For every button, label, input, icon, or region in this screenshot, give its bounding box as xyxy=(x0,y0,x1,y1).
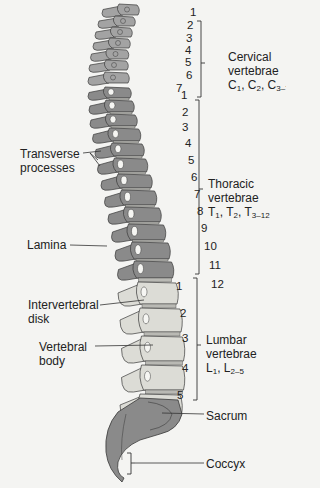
coccyx-label: Coccyx xyxy=(206,457,245,471)
vertebra xyxy=(88,72,129,85)
cervical-vertebra-number: 5 xyxy=(185,56,191,68)
foramen xyxy=(132,226,138,236)
intervertebral-disk xyxy=(111,126,135,128)
vertebra xyxy=(105,190,157,207)
vertebra xyxy=(98,16,135,28)
body-line2: body xyxy=(39,354,87,368)
thoracic-name: Thoracic xyxy=(208,177,270,191)
lumbar-vertebra-number: 1 xyxy=(176,280,182,292)
sacrum-label: Sacrum xyxy=(206,409,247,423)
foramen xyxy=(128,209,134,218)
lumbar-name-2: vertebrae xyxy=(206,347,257,361)
vertebral-column xyxy=(88,4,185,418)
foramen xyxy=(121,176,127,184)
vertebra xyxy=(93,128,141,143)
thoracic-label: Thoracic vertebrae T1, T2, T3–12 xyxy=(208,177,270,223)
lumbar-vertebra-number: 4 xyxy=(182,362,188,374)
thoracic-vertebra-number: 6 xyxy=(191,171,197,183)
thoracic-vertebra-number: 9 xyxy=(201,222,207,234)
thoracic-bracket xyxy=(195,100,203,274)
vertebra xyxy=(118,261,174,282)
cervical-name: Cervical xyxy=(228,50,286,64)
intervertebral-disk-label: Intervertebral disk xyxy=(28,298,99,326)
foramen xyxy=(115,145,121,153)
vertebra xyxy=(89,60,128,72)
thoracic-abbr: T1, T2, T3–12 xyxy=(208,205,270,223)
foramen xyxy=(108,89,114,96)
thoracic-vertebra-number: 1 xyxy=(181,89,187,101)
foramen xyxy=(135,245,141,255)
intervertebral-disk xyxy=(142,304,176,308)
intervertebral-disk xyxy=(116,156,142,158)
thoracic-vertebra-number: 4 xyxy=(185,137,191,149)
cervical-bracket xyxy=(197,21,205,97)
intervertebral-disk xyxy=(126,205,155,207)
vertebra xyxy=(108,207,161,224)
thoracic-vertebra-number: 7 xyxy=(194,188,200,200)
cervical-abbr: C1, C2, C3–7 xyxy=(228,78,286,96)
intervertebral-disk xyxy=(129,222,159,224)
cervical-vertebra-number: 6 xyxy=(186,69,192,81)
vertebra xyxy=(89,100,134,114)
vertebra xyxy=(115,242,170,261)
cervical-label: Cervical vertebrae C1, C2, C3–7 xyxy=(228,50,286,96)
lumbar-vertebra-number: 5 xyxy=(177,389,183,401)
cervical-vertebra-number: 3 xyxy=(186,32,192,44)
lumbar-name: Lumbar xyxy=(206,333,257,347)
sacrum-shape xyxy=(106,398,182,482)
foramen xyxy=(145,371,151,381)
foramen xyxy=(110,116,116,123)
vertebral-body xyxy=(106,49,129,59)
vertebra xyxy=(118,282,178,308)
vertebra xyxy=(88,87,131,100)
lumbar-bracket xyxy=(193,278,201,400)
vertebra xyxy=(98,158,148,174)
vertebra xyxy=(102,4,139,17)
intervertebral-disk xyxy=(114,141,139,143)
vertebra xyxy=(122,336,185,365)
lumbar-label: Lumbar vertebrae L1, L2–5 xyxy=(206,333,257,379)
vertebra xyxy=(91,49,129,61)
vertebra xyxy=(90,114,137,128)
transverse-line2: processes xyxy=(20,161,80,175)
vertebral-body xyxy=(108,38,130,48)
thoracic-name-2: vertebrae xyxy=(208,191,270,205)
lumbar-vertebra-number: 2 xyxy=(180,307,186,319)
thoracic-vertebra-number: 5 xyxy=(188,154,194,166)
cervical-vertebra-number: 2 xyxy=(187,19,193,31)
coccyx-bracket xyxy=(127,453,135,474)
vertebra xyxy=(93,38,130,50)
vertebral-body-label: Vertebral body xyxy=(39,340,87,368)
vertebra xyxy=(112,224,166,242)
vertebral-body xyxy=(103,72,129,83)
thoracic-vertebra-number: 8 xyxy=(197,205,203,217)
intervertebral-disk xyxy=(133,240,164,242)
lamina-leader xyxy=(70,245,107,246)
thoracic-vertebra-number: 3 xyxy=(182,121,188,133)
intervertebral-disk xyxy=(119,172,146,174)
foramen xyxy=(125,192,131,201)
vertebra xyxy=(101,174,152,190)
thoracic-vertebra-number: 2 xyxy=(182,106,188,118)
vertebral-body xyxy=(117,4,139,15)
thoracic-vertebra-number: 12 xyxy=(211,278,224,290)
vertebra xyxy=(122,365,185,394)
intervertebral-disk xyxy=(139,278,172,282)
foramen xyxy=(143,314,149,324)
disk-line2: disk xyxy=(28,312,99,326)
cervical-vertebra-number: 1 xyxy=(190,6,196,18)
intervertebral-disk xyxy=(146,361,183,365)
intervertebral-disk xyxy=(110,112,132,114)
cervical-name-2: vertebrae xyxy=(228,64,286,78)
vertebra xyxy=(120,308,182,336)
intervertebral-disk xyxy=(144,332,180,336)
foramen xyxy=(141,287,147,297)
foramen xyxy=(145,342,151,352)
lumbar-abbr: L1, L2–5 xyxy=(206,361,257,379)
transverse-line1: Transverse xyxy=(20,147,80,161)
transverse-processes-label: Transverse processes xyxy=(20,147,80,175)
intervertebral-disk xyxy=(136,259,168,261)
vertebra xyxy=(95,143,144,158)
foramen xyxy=(109,102,115,109)
foramen xyxy=(118,160,124,168)
